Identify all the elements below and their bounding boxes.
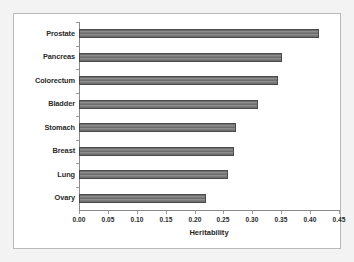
y-axis-label-stomach: Stomach — [14, 124, 75, 132]
bar-lung — [79, 170, 228, 179]
bar-ovary — [79, 194, 206, 203]
y-axis-label-pancreas: Pancreas — [14, 53, 75, 61]
chart-frame: ProstatePancreasColorectumBladderStomach… — [13, 13, 341, 249]
bar-breast — [79, 147, 234, 156]
x-axis-line — [79, 210, 340, 211]
bar-prostate — [79, 29, 319, 38]
x-tick-label: 0.45 — [326, 216, 352, 223]
x-tick — [137, 211, 138, 214]
x-tick-label: 0.05 — [95, 216, 121, 223]
bar-bladder — [79, 100, 258, 109]
x-tick-label: 0.35 — [268, 216, 294, 223]
x-tick — [79, 211, 80, 214]
y-axis-label-colorectum: Colorectum — [14, 77, 75, 85]
x-tick-label: 0.40 — [297, 216, 323, 223]
x-tick-label: 0.10 — [124, 216, 150, 223]
bar-pancreas — [79, 53, 282, 62]
x-tick — [310, 211, 311, 214]
figure-container: ProstatePancreasColorectumBladderStomach… — [0, 0, 354, 262]
x-tick-label: 0.00 — [66, 216, 92, 223]
x-tick — [223, 211, 224, 214]
y-tick — [76, 163, 79, 164]
y-axis-line — [79, 22, 80, 210]
x-tick-label: 0.25 — [210, 216, 236, 223]
y-tick — [76, 140, 79, 141]
bar-stomach — [79, 123, 236, 132]
x-tick-label: 0.30 — [239, 216, 265, 223]
y-axis-label-breast: Breast — [14, 147, 75, 155]
y-tick — [76, 93, 79, 94]
x-tick — [108, 211, 109, 214]
x-tick-label: 0.20 — [182, 216, 208, 223]
x-tick — [339, 211, 340, 214]
x-tick — [281, 211, 282, 214]
y-axis-label-prostate: Prostate — [14, 30, 75, 38]
y-tick — [76, 187, 79, 188]
x-tick — [252, 211, 253, 214]
x-tick — [195, 211, 196, 214]
x-tick-label: 0.15 — [153, 216, 179, 223]
y-tick — [76, 69, 79, 70]
y-tick — [76, 46, 79, 47]
y-tick — [76, 22, 79, 23]
y-axis-label-lung: Lung — [14, 171, 75, 179]
y-tick — [76, 116, 79, 117]
y-axis-label-bladder: Bladder — [14, 100, 75, 108]
x-tick — [166, 211, 167, 214]
bar-chart: ProstatePancreasColorectumBladderStomach… — [14, 14, 342, 250]
y-axis-label-ovary: Ovary — [14, 194, 75, 202]
x-axis-title: Heritability — [79, 228, 339, 237]
bar-colorectum — [79, 76, 278, 85]
